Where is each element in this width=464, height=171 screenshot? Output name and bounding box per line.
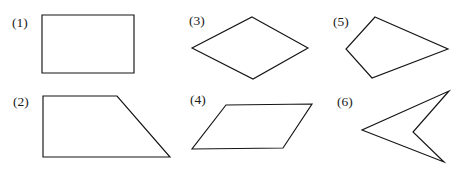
shape-parallelogram: (4) [190,92,312,149]
shape-concave-dart: (6) [337,91,449,162]
shape-label-parallelogram: (4) [190,92,206,107]
shape-outline-parallelogram [192,104,312,149]
shape-outline-rhombus [192,17,308,79]
shape-kite: (5) [333,14,448,78]
shape-outline-kite [346,17,448,78]
shape-label-rectangle: (1) [12,15,28,30]
shape-rhombus: (3) [189,13,308,79]
figure-canvas: (1)(2)(3)(4)(5)(6) [0,0,464,171]
shape-outline-trapezoid [43,96,170,157]
shape-outline-rectangle [42,15,134,73]
shape-label-concave-dart: (6) [337,94,353,109]
shapes-diagram: (1)(2)(3)(4)(5)(6) [0,0,464,171]
shape-group: (1)(2)(3)(4)(5)(6) [12,13,449,162]
shape-label-kite: (5) [333,14,349,29]
shape-label-trapezoid: (2) [13,94,29,109]
shape-outline-concave-dart [362,91,449,162]
shape-trapezoid: (2) [13,94,170,157]
shape-label-rhombus: (3) [189,13,205,28]
shape-rectangle: (1) [12,15,134,73]
